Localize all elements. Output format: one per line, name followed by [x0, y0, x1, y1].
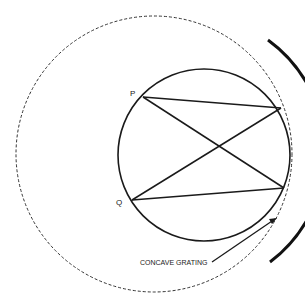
ray-p-lower: [143, 97, 284, 188]
label-point-q: Q: [116, 198, 122, 207]
grating-pointer: [212, 218, 277, 262]
grating-curvature-circle: [16, 16, 292, 292]
diagram-canvas: P Q CONCAVE GRATING: [0, 0, 305, 303]
ray-q-lower: [132, 188, 284, 200]
label-point-p: P: [130, 89, 135, 98]
ray-p-upper: [143, 97, 281, 108]
label-concave-grating: CONCAVE GRATING: [140, 259, 207, 266]
ray-lines: [132, 97, 284, 200]
concave-grating-arc: [268, 40, 305, 262]
ray-q-upper: [132, 108, 281, 200]
